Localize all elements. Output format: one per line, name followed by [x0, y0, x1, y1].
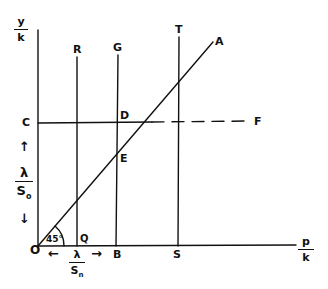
fraction-bar — [15, 181, 33, 182]
vertical-interval-label: λ So — [15, 166, 33, 201]
point-label-C: C — [22, 117, 30, 128]
vertical-interval-denominator: So — [17, 184, 32, 201]
horizontal-interval-label: λ Sn — [69, 249, 85, 279]
arrow-right-icon: → — [91, 247, 102, 260]
y-axis-label-denominator: k — [17, 32, 24, 43]
denominator-subscript: n — [78, 271, 83, 279]
horizontal-interval-denominator: Sn — [71, 265, 84, 279]
x-axis-label: p k — [298, 236, 314, 263]
fraction-bar — [69, 262, 85, 263]
fraction-bar — [298, 249, 314, 250]
point-label-D: D — [120, 110, 129, 121]
arrow-down-icon: ↓ — [19, 212, 30, 225]
fraction-bar — [14, 29, 28, 30]
horizontal-interval-numerator: λ — [74, 249, 81, 260]
angle-label: 45° — [46, 235, 63, 244]
vertical-interval-numerator: λ — [20, 166, 28, 179]
line-CD-solid — [38, 122, 152, 123]
y-axis-label: y k — [14, 16, 28, 43]
point-label-A: A — [215, 36, 224, 47]
angle-value: 45 — [46, 234, 59, 244]
denominator-subscript: o — [26, 192, 32, 201]
x-axis-label-numerator: p — [302, 236, 310, 247]
arrow-up-icon: ↑ — [19, 140, 30, 153]
point-label-S: S — [173, 249, 181, 260]
point-label-G: G — [113, 42, 122, 53]
line-TS — [178, 37, 179, 246]
y-axis-label-numerator: y — [17, 16, 24, 27]
x-axis-label-denominator: k — [302, 252, 309, 263]
line-GB — [116, 55, 118, 246]
point-label-B: B — [113, 249, 121, 260]
point-label-T: T — [175, 24, 183, 35]
angle-degree-symbol: ° — [59, 234, 64, 244]
denominator-base: S — [17, 183, 26, 198]
point-label-R: R — [73, 44, 81, 55]
point-label-origin: O — [30, 244, 40, 256]
arrow-left-icon: ← — [48, 247, 59, 260]
line-DF-dashed — [152, 121, 250, 122]
point-label-F: F — [254, 116, 262, 127]
point-label-E: E — [120, 153, 128, 164]
line-OA-45deg — [38, 42, 213, 246]
point-label-Q: Q — [80, 234, 89, 244]
